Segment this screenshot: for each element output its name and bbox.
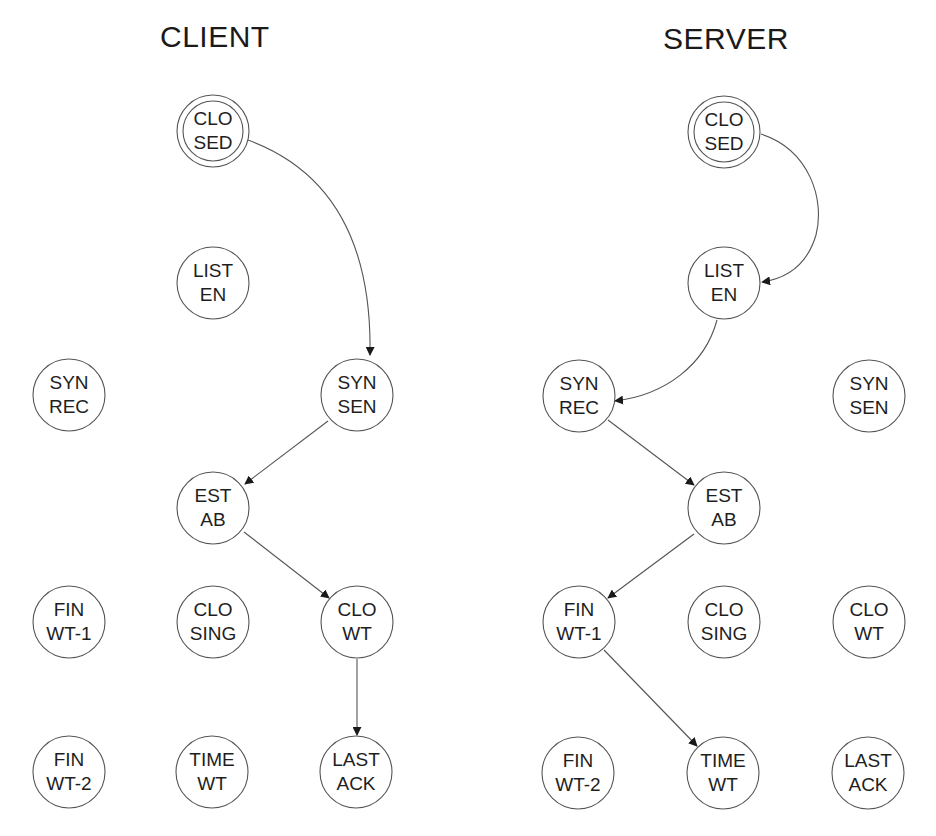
server-fin-wt-2-label: FINWT-2 — [542, 749, 614, 797]
server-nodes — [542, 96, 905, 809]
client-time-wt-label: TIMEWT — [176, 748, 248, 796]
server-close-wt-label: CLOWT — [833, 598, 905, 646]
client-syn-rec-label: SYNREC — [33, 371, 105, 419]
client-closing-label: CLOSING — [177, 598, 249, 646]
client-close-wt-label: CLOWT — [321, 598, 393, 646]
server-time-wt-label: TIMEWT — [687, 749, 759, 797]
server-syn-rec-label: SYNREC — [543, 372, 615, 420]
server-syn-sen-label: SYNSEN — [833, 372, 905, 420]
edge-server-closed-to-listen — [761, 134, 818, 282]
server-last-ack-label: LASTACK — [832, 749, 904, 797]
edge-server-listen-to-syn-rec — [615, 320, 717, 401]
edge-server-fin-wt-1-to-time-wt — [604, 650, 697, 746]
server-listen-label: LISTEN — [688, 259, 760, 307]
edge-client-syn-sen-to-estab — [245, 421, 328, 484]
client-closed-label: CLOSED — [177, 107, 249, 155]
server-closed-label: CLOSED — [688, 108, 760, 156]
edge-client-closed-to-syn-sen — [248, 140, 370, 355]
server-fin-wt-1-label: FINWT-1 — [543, 598, 615, 646]
server-closing-label: CLOSING — [688, 598, 760, 646]
client-fin-wt-2-label: FINWT-2 — [33, 748, 105, 796]
state-diagram-canvas — [0, 0, 936, 836]
client-nodes — [33, 95, 393, 808]
edge-client-estab-to-close-wt — [244, 532, 329, 598]
client-last-ack-label: LASTACK — [320, 748, 392, 796]
edge-server-estab-to-fin-wt-1 — [608, 534, 694, 598]
client-estab-label: ESTAB — [177, 484, 249, 532]
client-syn-sen-label: SYNSEN — [321, 371, 393, 419]
client-listen-label: LISTEN — [177, 259, 249, 307]
client-fin-wt-1-label: FINWT-1 — [33, 598, 105, 646]
server-estab-label: ESTAB — [688, 484, 760, 532]
edge-server-syn-rec-to-estab — [608, 420, 694, 485]
